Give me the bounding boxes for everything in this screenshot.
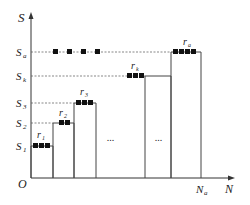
svg-text:S: S bbox=[16, 117, 22, 129]
bar-label-r3: r3 bbox=[80, 86, 88, 98]
svg-text:2: 2 bbox=[23, 123, 27, 131]
svg-text:1: 1 bbox=[42, 135, 45, 141]
svg-text:r: r bbox=[37, 129, 41, 140]
svg-text:k: k bbox=[136, 66, 139, 72]
axes bbox=[29, 12, 236, 181]
svg-text:r: r bbox=[59, 107, 63, 118]
svg-text:S: S bbox=[16, 140, 22, 152]
svg-text:k: k bbox=[23, 76, 27, 84]
y-level-labels: S1 S2 S3 Sk Sa bbox=[16, 46, 27, 154]
svg-text:3: 3 bbox=[84, 92, 88, 98]
bar-label-r1: r1 bbox=[37, 129, 45, 141]
x-axis-label: N bbox=[224, 182, 234, 196]
bar-label-ra: ra bbox=[183, 36, 191, 48]
svg-text:3: 3 bbox=[22, 103, 27, 111]
bar-ra bbox=[171, 52, 201, 178]
svg-text:r: r bbox=[131, 60, 135, 71]
svg-text:S: S bbox=[16, 46, 22, 58]
y-axis-label: S bbox=[18, 10, 25, 25]
svg-text:a: a bbox=[204, 189, 208, 197]
x-end-tick-label: N a bbox=[195, 183, 208, 197]
origin-label: O bbox=[18, 177, 27, 191]
svg-text:r: r bbox=[80, 86, 84, 97]
level-label-s2: S2 bbox=[16, 117, 27, 131]
svg-text:2: 2 bbox=[64, 113, 67, 119]
bar-r3 bbox=[74, 103, 96, 178]
bar-r2 bbox=[53, 123, 74, 178]
svg-text:S: S bbox=[16, 97, 22, 109]
svg-text:r: r bbox=[183, 36, 187, 47]
blocks bbox=[33, 49, 196, 148]
bars bbox=[31, 52, 201, 178]
level-label-sa: Sa bbox=[16, 46, 27, 60]
bar-r1 bbox=[31, 146, 53, 178]
svg-text:S: S bbox=[16, 70, 22, 82]
bar-label-rk: rk bbox=[131, 60, 139, 72]
svg-text:N: N bbox=[195, 183, 204, 195]
level-dashes bbox=[31, 52, 171, 123]
svg-text:1: 1 bbox=[23, 146, 27, 154]
level-label-s1: S1 bbox=[16, 140, 27, 154]
svg-text:a: a bbox=[23, 52, 27, 60]
ellipsis-2: ... bbox=[155, 132, 163, 143]
level-label-s3: S3 bbox=[16, 97, 27, 111]
x-axis-arrow-icon bbox=[228, 176, 235, 181]
y-axis-arrow-icon bbox=[29, 12, 34, 19]
bar-rk bbox=[145, 76, 171, 178]
stacked-level-diagram: S N O N a S1 S2 S3 Sk Sa bbox=[0, 0, 250, 205]
ellipsis-1: ... bbox=[107, 132, 115, 143]
level-label-sk: Sk bbox=[16, 70, 27, 84]
bar-label-r2: r2 bbox=[59, 107, 67, 119]
svg-text:a: a bbox=[188, 42, 191, 48]
